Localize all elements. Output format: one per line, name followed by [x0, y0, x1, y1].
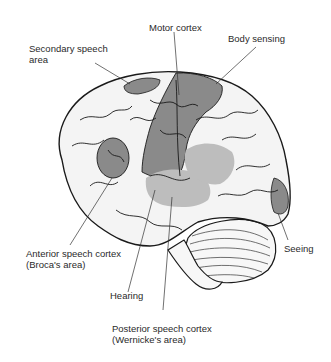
label-line: Posterior speech cortex: [112, 323, 212, 334]
label-broca: Anterior speech cortex (Broca's area): [26, 248, 121, 270]
label-line: (Broca's area): [26, 259, 121, 270]
label-motor-cortex: Motor cortex: [149, 22, 202, 33]
label-line: Anterior speech cortex: [26, 248, 121, 259]
label-line: (Wernicke's area): [112, 334, 212, 345]
label-body-sensing: Body sensing: [228, 33, 285, 44]
label-hearing: Hearing: [110, 290, 143, 301]
label-line: Seeing: [284, 243, 314, 254]
label-secondary-speech: Secondary speech area: [29, 43, 108, 65]
label-line: area: [29, 54, 108, 65]
label-line: Hearing: [110, 290, 143, 301]
label-seeing: Seeing: [284, 243, 314, 254]
label-line: Secondary speech: [29, 43, 108, 54]
broca-region: [97, 138, 129, 178]
label-line: Motor cortex: [149, 22, 202, 33]
label-line: Body sensing: [228, 33, 285, 44]
label-wernicke: Posterior speech cortex (Wernicke's area…: [112, 323, 212, 345]
